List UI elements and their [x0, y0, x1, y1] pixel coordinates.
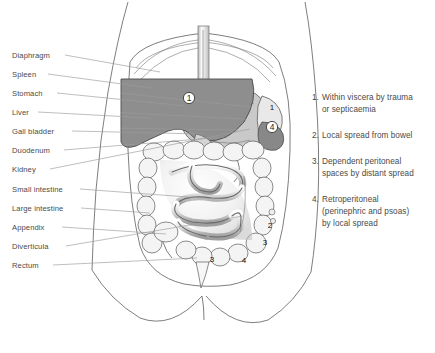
organ-label: Appendix: [12, 223, 45, 232]
legend-line: by local spread: [322, 219, 378, 228]
rectum: [196, 262, 209, 288]
legend-line: Retroperitoneal: [322, 195, 379, 204]
legend-number: 1.: [312, 93, 319, 102]
liver-marker: 1: [183, 92, 194, 103]
organ-label: Duodenum: [12, 146, 50, 155]
organ-label: Liver: [12, 108, 29, 117]
organ-label: Kidney: [12, 165, 36, 174]
marker-number: 1: [270, 103, 275, 112]
anatomy-figure: DiaphragmSpleenStomachLiverGall bladderD…: [0, 0, 435, 353]
marker-number: 4: [270, 122, 275, 132]
right-flank-marker: 1: [270, 103, 275, 112]
organ-label: Diverticula: [12, 242, 49, 251]
marker-number: 1: [187, 93, 192, 103]
legend-number: 2.: [312, 131, 319, 140]
organ-label: Large intestine: [12, 204, 63, 213]
paracolic-marker: 3: [263, 238, 268, 247]
legend-line: (perinephric and psoas): [322, 207, 409, 216]
organ-label-list: DiaphragmSpleenStomachLiverGall bladderD…: [12, 51, 63, 270]
organ-label: Gall bladder: [12, 127, 55, 136]
legend-line: spaces by distant spread: [322, 169, 414, 178]
marker-number: 3: [210, 255, 215, 264]
marker-number: 4: [242, 256, 247, 265]
organ-label: Small intestine: [12, 185, 63, 194]
legend-line: Local spread from bowel: [322, 131, 412, 140]
leader-line: [53, 258, 197, 265]
marker-number: 2: [268, 221, 273, 230]
psoas-marker: 4: [242, 256, 247, 265]
pelvic-marker: 3: [210, 255, 215, 264]
retro-marker: 4: [266, 121, 277, 132]
legend-line: or septicaemia: [322, 105, 376, 114]
legend-line: Dependent peritoneal: [322, 157, 401, 166]
marker-number: 3: [263, 238, 268, 247]
legend-line: Within viscera by trauma: [322, 93, 413, 102]
organ-label: Diaphragm: [12, 51, 50, 60]
legend-number: 4.: [312, 195, 319, 204]
organ-label: Spleen: [12, 70, 36, 79]
legend-number: 3.: [312, 157, 319, 166]
legend-list: 1.Within viscera by traumaor septicaemia…: [312, 93, 414, 228]
bowel-marker: 2: [268, 221, 273, 230]
organ-label: Rectum: [12, 261, 39, 270]
organ-label: Stomach: [12, 89, 43, 98]
